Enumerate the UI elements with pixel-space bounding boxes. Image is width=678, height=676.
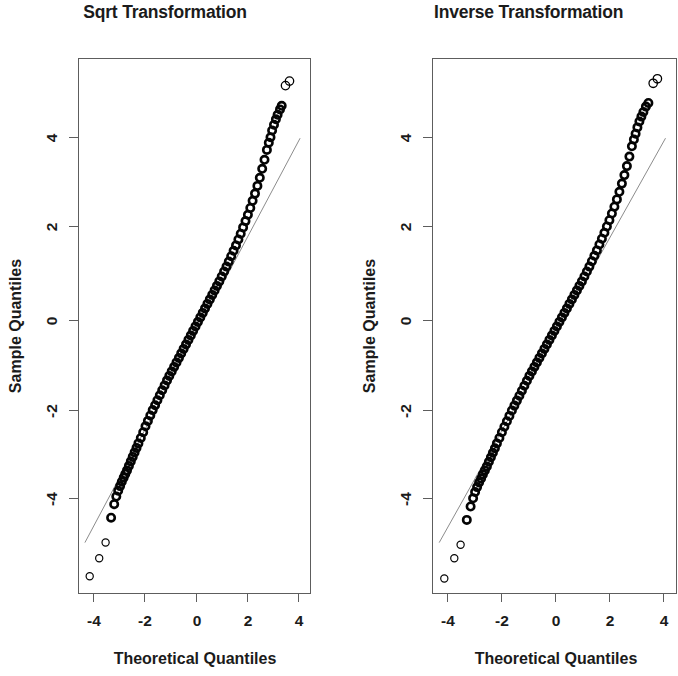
ytick-mark: [69, 498, 78, 499]
xtick-label: 0: [193, 612, 202, 630]
ytick-label: 4: [397, 134, 415, 143]
plot-area-inverse: [432, 58, 677, 594]
ytick-label: 0: [43, 317, 61, 326]
ytick-label: 2: [43, 223, 61, 232]
xtick-mark: [447, 593, 448, 602]
ytick-label: 4: [43, 134, 61, 143]
ytick-label: -4: [397, 492, 415, 506]
plot-canvas-inverse: [433, 59, 678, 595]
xtick-mark: [144, 593, 145, 602]
xtick-mark: [501, 593, 502, 602]
ytick-mark: [69, 226, 78, 227]
y-axis-title-sqrt: Sample Quantiles: [7, 259, 25, 393]
x-axis-title-sqrt: Theoretical Quantiles: [114, 650, 277, 668]
ytick-label: -2: [397, 404, 415, 418]
xtick-label: 4: [295, 612, 304, 630]
xtick-mark: [247, 593, 248, 602]
ytick-label: 2: [397, 223, 415, 232]
ytick-mark: [423, 320, 432, 321]
qq-points-inverse: [441, 75, 662, 583]
y-axis-title-inverse: Sample Quantiles: [361, 259, 379, 393]
xtick-label: 4: [660, 612, 669, 630]
xtick-label: -2: [138, 612, 152, 630]
ytick-mark: [69, 410, 78, 411]
panel-title-inverse: Inverse Transformation: [434, 2, 623, 23]
panel-sqrt-transformation: Sqrt Transformation: [0, 0, 330, 676]
panel-inverse-transformation: Inverse Transformation: [330, 0, 661, 676]
xtick-mark: [555, 593, 556, 602]
ytick-label: -4: [43, 492, 61, 506]
xtick-mark: [609, 593, 610, 602]
xtick-mark: [298, 593, 299, 602]
xtick-label: -4: [441, 612, 455, 630]
qq-points-sqrt: [86, 77, 294, 580]
panel-title-sqrt: Sqrt Transformation: [0, 2, 330, 23]
xtick-mark: [93, 593, 94, 602]
ytick-mark: [69, 320, 78, 321]
xtick-label: 2: [606, 612, 615, 630]
xtick-label: 2: [244, 612, 253, 630]
ytick-label: -2: [43, 404, 61, 418]
ytick-mark: [423, 498, 432, 499]
plot-area-sqrt: [78, 58, 311, 594]
ytick-mark: [69, 137, 78, 138]
plot-canvas-sqrt: [79, 59, 312, 595]
xtick-mark: [196, 593, 197, 602]
xtick-label: -2: [495, 612, 509, 630]
ytick-mark: [423, 226, 432, 227]
x-axis-title-inverse: Theoretical Quantiles: [475, 650, 638, 668]
xtick-mark: [663, 593, 664, 602]
ytick-mark: [423, 410, 432, 411]
ytick-mark: [423, 137, 432, 138]
xtick-label: -4: [87, 612, 101, 630]
ytick-label: 0: [397, 317, 415, 326]
xtick-label: 0: [552, 612, 561, 630]
